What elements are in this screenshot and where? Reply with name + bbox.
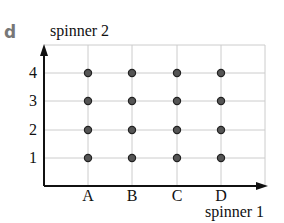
x-tick-label: D — [215, 187, 227, 204]
data-point — [173, 97, 180, 104]
data-point — [217, 126, 224, 133]
data-point — [128, 97, 135, 104]
x-tick-label: B — [127, 187, 138, 204]
y-axis-arrow-icon — [40, 44, 48, 56]
grid-lines — [44, 45, 265, 186]
data-point — [217, 97, 224, 104]
data-point — [84, 69, 91, 76]
data-point — [128, 69, 135, 76]
x-axis-label: spinner 1 — [205, 203, 264, 221]
x-axis-arrow-icon — [256, 182, 268, 190]
sample-space-chart: ABCD 1234 spinner 2 spinner 1 — [0, 0, 284, 223]
x-tick-label: C — [172, 187, 183, 204]
y-tick-labels: 1234 — [29, 64, 37, 166]
data-point — [84, 154, 91, 161]
data-point — [173, 69, 180, 76]
x-tick-label: A — [82, 187, 94, 204]
data-points — [84, 69, 224, 161]
y-tick-label: 4 — [29, 64, 37, 81]
y-tick-label: 1 — [29, 149, 37, 166]
data-point — [217, 69, 224, 76]
data-point — [128, 154, 135, 161]
data-point — [217, 154, 224, 161]
y-tick-label: 2 — [29, 121, 37, 138]
data-point — [173, 126, 180, 133]
data-point — [173, 154, 180, 161]
data-point — [128, 126, 135, 133]
y-axis-label: spinner 2 — [50, 22, 109, 40]
x-tick-labels: ABCD — [82, 187, 227, 204]
data-point — [84, 126, 91, 133]
y-tick-label: 3 — [29, 92, 37, 109]
data-point — [84, 97, 91, 104]
axes — [40, 44, 268, 190]
